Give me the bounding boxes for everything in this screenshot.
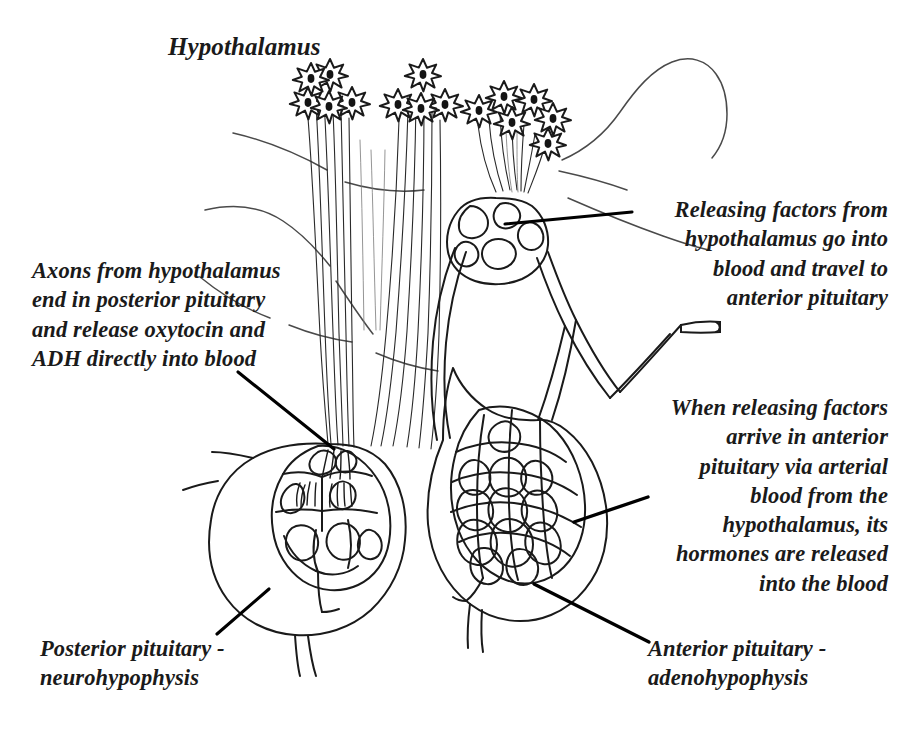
label-axons-from-hypothalamus: Axons from hypothalamus end in posterior… [32, 256, 302, 373]
neuron-cluster-left [290, 59, 370, 123]
median-eminence-plexus [447, 198, 548, 284]
label-hypothalamus: Hypothalamus [168, 31, 321, 64]
label-releasing-factors: Releasing factors from hypothalamus go i… [636, 195, 888, 312]
diagram-canvas: Hypothalamus Axons from hypothalamus end… [0, 0, 898, 729]
arterial-stub [681, 322, 720, 333]
axon-bundle [308, 100, 441, 449]
neuron-cluster-right [461, 81, 571, 160]
neuron-cluster-middle [380, 59, 463, 125]
label-posterior-pituitary: Posterior pituitary - neurohypophysis [40, 634, 330, 693]
anterior-lobe [428, 368, 608, 652]
leader-axons [238, 372, 334, 449]
label-when-releasing-factors-arrive: When releasing factors arrive in anterio… [624, 393, 888, 598]
label-anterior-pituitary: Anterior pituitary - adenohypophysis [648, 634, 888, 693]
leader-releasing [505, 212, 632, 224]
